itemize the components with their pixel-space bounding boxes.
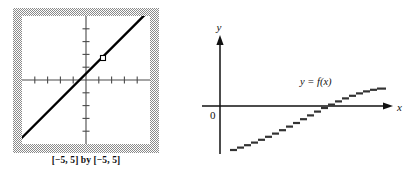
y-axis bbox=[216, 35, 223, 154]
origin-label: 0 bbox=[210, 109, 216, 121]
step-function-curve bbox=[230, 89, 386, 150]
function-diagram: y x 0 y = f( bbox=[196, 18, 409, 163]
calculator-window-caption: [−5, 5] by [−5, 5] bbox=[13, 155, 159, 165]
calculator-axes bbox=[22, 16, 150, 144]
calculator-screen bbox=[22, 16, 150, 144]
trace-cursor-marker bbox=[101, 56, 106, 61]
calculator-figure: [−5, 5] by [−5, 5] bbox=[13, 8, 159, 153]
function-diagram-plot: y x 0 y = f( bbox=[196, 18, 409, 163]
function-label: y = f(x) bbox=[299, 76, 332, 88]
y-axis-label: y bbox=[216, 21, 222, 33]
calculator-plot bbox=[22, 16, 150, 144]
x-axis-label: x bbox=[396, 101, 402, 113]
x-axis bbox=[202, 102, 393, 109]
